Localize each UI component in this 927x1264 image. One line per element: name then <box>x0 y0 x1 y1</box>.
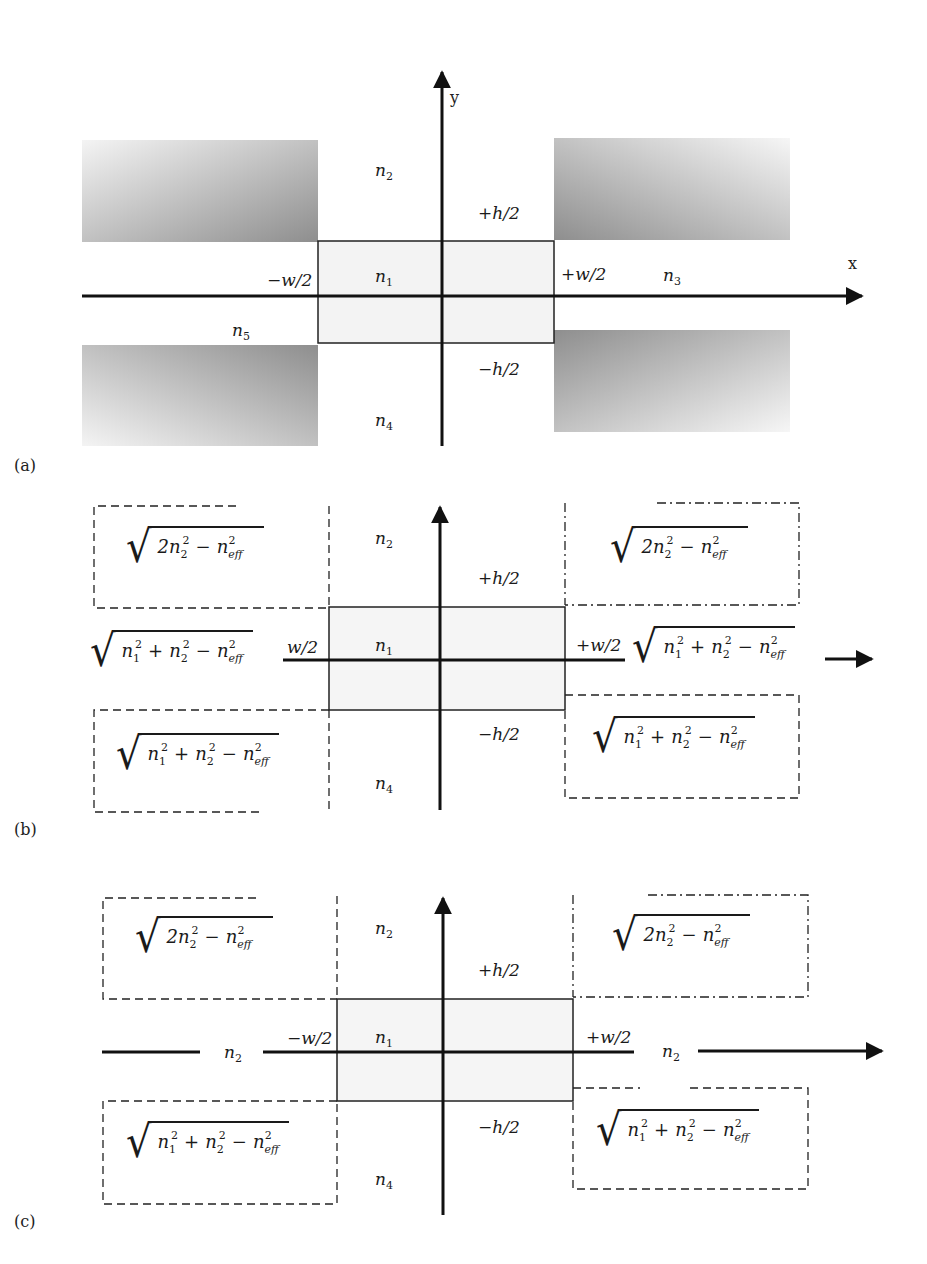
formula-bottom-right: √n12+n22−neff2 <box>592 716 755 757</box>
bound-minus-w2: −w/2 <box>287 1030 332 1047</box>
bound-w2: w/2 <box>287 639 318 656</box>
region-label-n2: n2 <box>375 920 393 940</box>
y-axis-label: y <box>450 88 459 107</box>
formula-top-right: √2n22−neff2 <box>610 526 748 567</box>
bound-plus-w2: +w/2 <box>586 1029 631 1046</box>
bound-plus-h2: +h/2 <box>478 205 520 222</box>
bound-plus-w2: +w/2 <box>561 266 606 283</box>
formula-bottom-left: √n12+n22−neff2 <box>116 733 279 774</box>
formula-top-left: √2n22−neff2 <box>135 916 273 957</box>
cladding-bottom-right-shade <box>554 330 790 432</box>
formula-bottom-left: √n12+n22−neff2 <box>126 1121 289 1162</box>
bound-minus-w2: −w/2 <box>267 272 312 289</box>
formula-left: √n12+n22−neff2 <box>90 630 253 671</box>
region-label-n4: n4 <box>375 775 393 795</box>
core-rectangle <box>337 999 573 1101</box>
bound-minus-h2: −h/2 <box>478 726 520 743</box>
bound-minus-h2: −h/2 <box>478 1119 520 1136</box>
core-rectangle <box>318 241 554 343</box>
formula-bottom-right: √n12+n22−neff2 <box>596 1109 759 1150</box>
cladding-top-right-shade <box>554 138 790 240</box>
bound-plus-h2: +h/2 <box>478 570 520 587</box>
region-label-n3: n3 <box>663 267 681 287</box>
formula-top-right: √2n22−neff2 <box>612 914 750 955</box>
panel-tag-c: (c) <box>14 1212 35 1231</box>
bound-plus-h2: +h/2 <box>478 962 520 979</box>
panel-a <box>82 72 862 446</box>
region-label-left-n2: n2 <box>224 1044 242 1064</box>
region-label-n5: n5 <box>232 322 250 342</box>
region-label-n4: n4 <box>375 1171 393 1191</box>
cladding-top-left-shade <box>82 140 318 242</box>
formula-top-left: √2n22−neff2 <box>126 526 264 567</box>
region-label-n1: n1 <box>375 268 393 288</box>
region-label-n2: n2 <box>375 162 393 182</box>
region-label-n2: n2 <box>375 530 393 550</box>
region-label-right-n2: n2 <box>662 1043 680 1063</box>
region-label-n1: n1 <box>375 1029 393 1049</box>
panel-tag-b: (b) <box>14 820 37 839</box>
bound-plus-w2: +w/2 <box>576 637 621 654</box>
region-label-n1: n1 <box>375 637 393 657</box>
panel-tag-a: (a) <box>14 456 36 475</box>
region-label-n4: n4 <box>375 412 393 432</box>
cladding-bottom-left-shade <box>82 345 318 446</box>
bound-minus-h2: −h/2 <box>478 361 520 378</box>
formula-right: √n12+n22−neff2 <box>632 626 795 667</box>
x-axis-label: x <box>848 254 857 273</box>
